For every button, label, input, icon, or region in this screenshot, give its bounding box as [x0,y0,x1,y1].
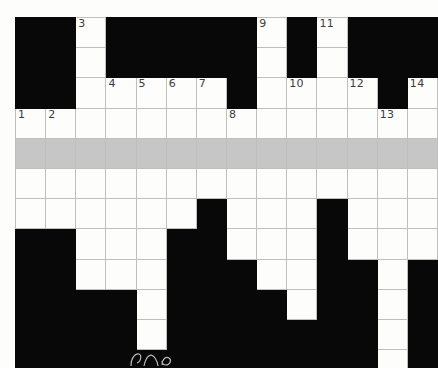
crossword-shaded-cell[interactable] [287,138,317,168]
crossword-cell[interactable] [287,229,317,259]
crossword-cell[interactable] [287,259,317,289]
crossword-cell[interactable] [257,199,287,229]
crossword-shaded-cell[interactable] [407,138,437,168]
crossword-block-cell [317,259,347,289]
crossword-cell[interactable] [377,199,407,229]
crossword-cell[interactable] [76,108,106,138]
crossword-cell[interactable] [257,48,287,78]
crossword-cell[interactable] [347,168,377,198]
crossword-cell[interactable] [106,259,136,289]
crossword-block-cell [16,289,46,319]
crossword-cell[interactable] [377,289,407,319]
crossword-cell[interactable] [317,108,347,138]
crossword-cell[interactable] [76,229,106,259]
crossword-cell[interactable] [407,108,437,138]
crossword-cell[interactable] [377,229,407,259]
crossword-cell[interactable] [16,168,46,198]
crossword-cell[interactable] [407,168,437,198]
crossword-shaded-cell[interactable] [136,138,166,168]
crossword-cell[interactable] [377,350,407,368]
crossword-cell[interactable] [136,259,166,289]
crossword-shaded-cell[interactable] [257,138,287,168]
crossword-cell[interactable]: 11 [317,18,347,48]
crossword-cell[interactable] [46,199,76,229]
crossword-cell[interactable] [136,108,166,138]
crossword-cell[interactable] [76,199,106,229]
crossword-cell[interactable] [166,108,196,138]
crossword-cell[interactable] [106,199,136,229]
crossword-cell[interactable] [226,199,256,229]
crossword-cell[interactable] [136,168,166,198]
crossword-cell[interactable] [136,199,166,229]
crossword-cell[interactable] [76,168,106,198]
crossword-cell[interactable]: 3 [76,18,106,48]
crossword-cell[interactable] [257,229,287,259]
crossword-cell[interactable] [287,168,317,198]
crossword-cell[interactable] [377,168,407,198]
crossword-cell[interactable]: 12 [347,78,377,108]
crossword-cell[interactable] [76,78,106,108]
crossword-cell[interactable] [347,108,377,138]
crossword-cell[interactable]: 14 [407,78,437,108]
crossword-cell[interactable] [226,168,256,198]
crossword-cell[interactable]: 13 [377,108,407,138]
crossword-shaded-cell[interactable] [166,138,196,168]
crossword-shaded-cell[interactable] [16,138,46,168]
crossword-cell[interactable] [407,229,437,259]
crossword-block-cell [46,229,76,259]
crossword-shaded-cell[interactable] [317,138,347,168]
crossword-cell[interactable] [317,78,347,108]
crossword-cell[interactable]: 9 [257,18,287,48]
crossword-cell[interactable]: 5 [136,78,166,108]
crossword-cell[interactable] [347,199,377,229]
crossword-cell[interactable] [287,289,317,319]
crossword-cell[interactable] [196,108,226,138]
crossword-cell[interactable] [106,229,136,259]
crossword-grid[interactable]: 3911456710121412813 [15,17,438,368]
crossword-block-cell [226,289,256,319]
crossword-grid-container[interactable]: 3911456710121412813 [15,17,438,368]
crossword-cell[interactable] [257,108,287,138]
crossword-cell[interactable] [287,199,317,229]
crossword-shaded-cell[interactable] [196,138,226,168]
crossword-cell[interactable] [407,199,437,229]
crossword-cell[interactable]: 7 [196,78,226,108]
crossword-block-cell [46,259,76,289]
crossword-cell[interactable] [377,259,407,289]
crossword-cell[interactable] [76,48,106,78]
crossword-cell[interactable] [377,319,407,349]
crossword-cell[interactable] [106,108,136,138]
crossword-cell[interactable] [196,168,226,198]
crossword-cell[interactable] [347,229,377,259]
crossword-block-cell [106,48,136,78]
crossword-shaded-cell[interactable] [106,138,136,168]
crossword-block-cell [196,319,226,349]
crossword-cell[interactable] [136,229,166,259]
crossword-cell[interactable] [166,199,196,229]
crossword-shaded-cell[interactable] [377,138,407,168]
crossword-cell[interactable] [166,168,196,198]
crossword-cell[interactable]: 6 [166,78,196,108]
crossword-cell[interactable]: 2 [46,108,76,138]
crossword-cell[interactable] [106,168,136,198]
crossword-cell[interactable] [136,289,166,319]
crossword-cell[interactable] [16,199,46,229]
crossword-cell[interactable] [257,78,287,108]
crossword-cell[interactable] [317,168,347,198]
crossword-cell[interactable]: 1 [16,108,46,138]
crossword-cell[interactable] [317,48,347,78]
crossword-cell[interactable]: 8 [226,108,256,138]
crossword-shaded-cell[interactable] [76,138,106,168]
crossword-cell[interactable] [287,108,317,138]
crossword-cell[interactable]: 10 [287,78,317,108]
crossword-cell[interactable] [257,168,287,198]
crossword-shaded-cell[interactable] [226,138,256,168]
crossword-cell[interactable] [46,168,76,198]
crossword-cell[interactable] [257,259,287,289]
crossword-cell[interactable] [76,259,106,289]
crossword-cell[interactable] [136,319,166,349]
crossword-cell[interactable] [226,229,256,259]
crossword-cell[interactable]: 4 [106,78,136,108]
crossword-shaded-cell[interactable] [46,138,76,168]
crossword-shaded-cell[interactable] [347,138,377,168]
